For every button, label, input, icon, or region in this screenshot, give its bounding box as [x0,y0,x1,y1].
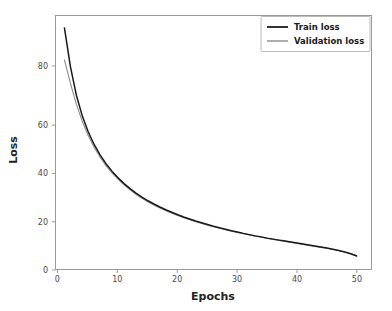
x-tick-50: 50 [352,270,362,285]
x-tick-label: 0 [55,275,60,284]
x-tick-10: 10 [112,270,122,285]
y-tick-label: 40 [38,169,48,178]
x-tick-label: 10 [112,275,122,284]
legend-label: Train loss [294,22,340,32]
y-axis-title: Loss [7,136,20,164]
plot-frame [56,16,372,270]
y-tick-label: 20 [38,218,48,227]
x-axis: 0 10 20 30 40 50 [55,270,362,285]
x-axis-title: Epochs [191,290,235,303]
loss-curve-chart: 0 20 40 60 80 0 [0,0,392,311]
y-axis: 0 20 40 60 80 [38,62,56,275]
y-tick-40: 40 [38,169,56,178]
y-tick-0: 0 [43,266,56,275]
y-tick-label: 80 [38,62,48,71]
validation-loss-line [64,60,356,256]
x-tick-20: 20 [172,270,182,285]
x-tick-0: 0 [55,270,60,285]
x-tick-40: 40 [292,270,302,285]
x-tick-30: 30 [232,270,242,285]
legend[interactable]: Train loss Validation loss [261,17,370,52]
train-loss-line [64,28,356,256]
y-tick-20: 20 [38,218,56,227]
legend-label: Validation loss [294,36,364,46]
y-tick-60: 60 [38,121,56,130]
figure-canvas: 0 20 40 60 80 0 [0,0,392,311]
x-tick-label: 40 [292,275,302,284]
x-tick-label: 30 [232,275,242,284]
x-tick-label: 20 [172,275,182,284]
y-tick-label: 60 [38,121,48,130]
y-tick-label: 0 [43,266,48,275]
y-tick-80: 80 [38,62,56,71]
series-group [64,28,356,256]
x-tick-label: 50 [352,275,362,284]
